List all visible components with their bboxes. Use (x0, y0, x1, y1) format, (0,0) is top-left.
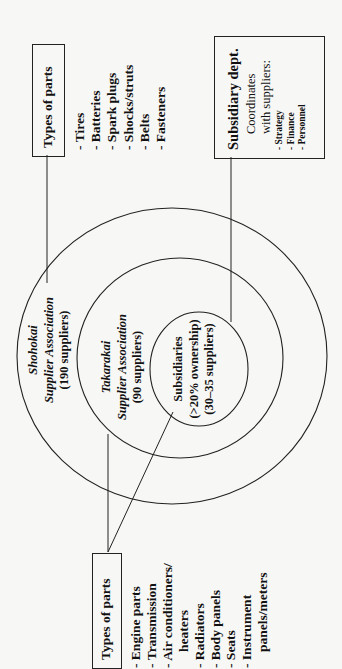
outer-parts-item: - Fasteners (153, 65, 169, 150)
inner-ring-label: Subsidiaries (>20% ownership) (30–35 sup… (171, 306, 218, 432)
outer-parts-item: - Tires (72, 65, 88, 150)
inner-parts-item: heaters (176, 563, 192, 668)
inner-ring-name: Subsidiaries (171, 306, 187, 432)
inner-parts-list: - Engine parts - Transmission - Air cond… (128, 563, 271, 668)
inner-parts-item: - Engine parts (128, 563, 144, 668)
outer-ring-subtitle: Supplier Association (42, 285, 58, 415)
inner-ring-count: (30–35 suppliers) (202, 306, 218, 432)
connector-inner-parts-b (108, 412, 173, 552)
inner-parts-item: - Air conditioners/ (160, 563, 176, 668)
inner-parts-item: - Instrument (239, 563, 255, 668)
subsidiary-dept-line1: Coordinates (244, 48, 259, 150)
subsidiary-dept-item: - Personnel (297, 48, 309, 150)
subsidiary-dept-title: Subsidiary dept. (222, 48, 244, 150)
inner-parts-item: - Seats (223, 563, 239, 668)
inner-ring-ownership: (>20% ownership) (187, 306, 203, 432)
outer-parts-item: - Batteries (88, 65, 104, 150)
inner-parts-title: Types of parts (97, 578, 115, 660)
inner-parts-item: - Radiators (192, 563, 208, 668)
outer-parts-item: - Belts (137, 65, 153, 150)
outer-parts-title: Types of parts (39, 66, 57, 148)
middle-ring-name: Takarakai (99, 302, 115, 432)
inner-parts-item: panels/meters (255, 563, 271, 668)
subsidiary-dept-item: - Finance (286, 48, 298, 150)
inner-parts-item: - Transmission (144, 563, 160, 668)
outer-ring-count: (190 suppliers) (57, 285, 73, 415)
outer-ring-label: Shohokai Supplier Association (190 suppl… (26, 285, 73, 415)
outer-parts-list: - Tires - Batteries - Spark plugs - Shoc… (72, 65, 169, 150)
middle-ring-count: (90 suppliers) (130, 302, 146, 432)
middle-ring-label: Takarakai Supplier Association (90 suppl… (99, 302, 146, 432)
outer-parts-item: - Spark plugs (104, 65, 120, 150)
subsidiary-dept-content: Subsidiary dept. Coordinates with suppli… (222, 48, 309, 150)
outer-ring-name: Shohokai (26, 285, 42, 415)
outer-parts-item: - Shocks/struts (121, 65, 137, 150)
subsidiary-dept-item: - Strategy (274, 48, 286, 150)
subsidiary-dept-line2: with suppliers: (259, 48, 274, 150)
inner-parts-item: - Body panels (208, 563, 224, 668)
middle-ring-subtitle: Supplier Association (115, 302, 131, 432)
